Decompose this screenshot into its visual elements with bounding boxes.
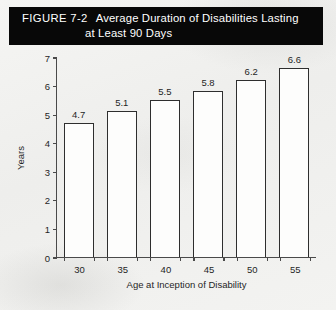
x-axis-tick-label: 30: [74, 264, 85, 275]
bar: [64, 123, 94, 257]
bar-value-label: 5.8: [201, 77, 214, 88]
figure-title-text: FIGURE 7-2Average Duration of Disabiliti…: [22, 11, 316, 41]
x-axis-tick-mark: [150, 257, 151, 261]
bar: [107, 111, 137, 257]
x-axis-tick-mark: [64, 257, 65, 261]
bar-value-label: 5.1: [115, 97, 128, 108]
bar-value-label: 6.6: [288, 54, 301, 65]
bar-series: 4.75.15.55.86.26.6: [57, 58, 316, 257]
y-axis-tick-label: 0: [45, 251, 50, 266]
bar: [279, 68, 309, 257]
x-axis-tick-label: 55: [290, 264, 301, 275]
figure-title-banner: FIGURE 7-2Average Duration of Disabiliti…: [10, 8, 322, 44]
x-axis-tick-label: 40: [161, 264, 172, 275]
bar-value-label: 5.5: [158, 86, 171, 97]
y-axis-title: Years: [15, 146, 26, 170]
y-axis-tick-label: 3: [45, 165, 50, 180]
bar-slot: 5.1: [107, 58, 137, 257]
x-axis-tick-mark: [94, 257, 95, 261]
figure-page: FIGURE 7-2Average Duration of Disabiliti…: [0, 0, 336, 310]
bar-slot: 5.8: [193, 58, 223, 257]
y-axis-tick-label: 5: [45, 108, 50, 123]
x-axis-tick-mark: [193, 257, 194, 261]
y-axis-tick-mark: [53, 257, 57, 258]
x-axis-tick-mark: [280, 257, 281, 261]
x-axis-tick-label: 50: [247, 264, 258, 275]
chart-plot-area: Years 01234567 4.75.15.55.86.26.6 303540…: [56, 58, 316, 258]
bar-slot: 5.5: [150, 58, 180, 257]
bar-slot: 4.7: [64, 58, 94, 257]
x-axis-tick-mark: [223, 257, 224, 261]
x-axis-tick-label: 35: [117, 264, 128, 275]
x-axis-tick-mark: [107, 257, 108, 261]
bar: [193, 91, 223, 257]
figure-number: FIGURE 7-2: [22, 12, 88, 24]
bar: [236, 80, 266, 257]
figure-title-first-line: FIGURE 7-2Average Duration of Disabiliti…: [22, 11, 316, 26]
y-axis-tick-label: 2: [45, 193, 50, 208]
bar-slot: 6.6: [279, 58, 309, 257]
bar-slot: 6.2: [236, 58, 266, 257]
x-axis-tick-mark: [180, 257, 181, 261]
y-axis-tick-label: 4: [45, 136, 50, 151]
x-axis-tick-mark: [137, 257, 138, 261]
x-axis-tick-label: 45: [204, 264, 215, 275]
figure-title-line-1: Average Duration of Disabilities Lasting: [96, 12, 299, 24]
x-axis-tick-mark: [310, 257, 311, 261]
x-axis-title: Age at Inception of Disability: [57, 279, 316, 290]
x-axis-tick-mark: [267, 257, 268, 261]
x-axis-tick-mark: [237, 257, 238, 261]
figure-title-line-2: at Least 90 Days: [22, 26, 316, 41]
bar-value-label: 6.2: [245, 66, 258, 77]
y-axis-tick-label: 1: [45, 222, 50, 237]
y-axis-tick-label: 7: [45, 51, 50, 66]
bar-value-label: 4.7: [72, 109, 85, 120]
y-axis-tick-label: 6: [45, 79, 50, 94]
bar: [150, 100, 180, 257]
